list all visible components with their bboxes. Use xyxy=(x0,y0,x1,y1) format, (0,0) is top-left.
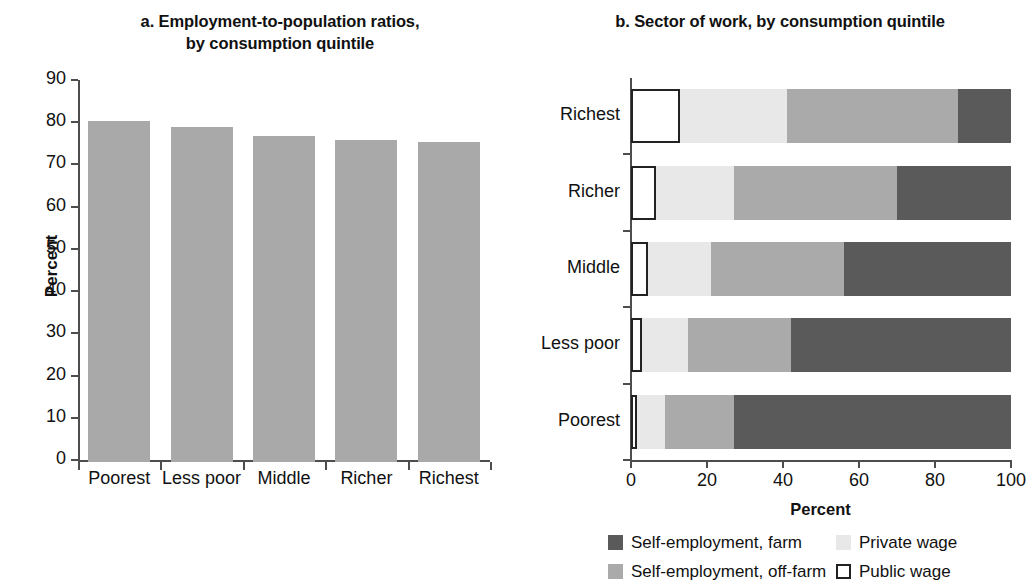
panel-a-y-tick-label: 70 xyxy=(26,152,66,173)
panel-b-bar-segment xyxy=(637,395,666,449)
panel-a-bar xyxy=(335,140,397,462)
legend-swatch-icon xyxy=(608,535,623,550)
panel-a-y-tick xyxy=(71,163,78,165)
panel-b-x-tick xyxy=(1010,460,1012,468)
panel-a-y-tick xyxy=(71,248,78,250)
legend-label: Self-employment, off-farm xyxy=(631,562,826,582)
panel-b-bar-segment xyxy=(631,89,680,143)
panel-b-bar-segment xyxy=(787,89,958,143)
panel-b-x-tick xyxy=(782,460,784,468)
panel-b-x-tick xyxy=(630,460,632,468)
legend-swatch-icon xyxy=(836,535,851,550)
panel-a-y-tick-label: 30 xyxy=(26,321,66,342)
panel-a-y-tick-label: 40 xyxy=(26,279,66,300)
panel-a-y-tick-label: 0 xyxy=(26,448,66,469)
panel-a: Percent 0102030405060708090 PoorestLess … xyxy=(0,60,520,500)
panel-a-title-line2: by consumption quintile xyxy=(45,32,515,54)
panel-b-bar-segment xyxy=(734,395,1011,449)
legend-label: Public wage xyxy=(859,562,951,582)
panel-a-y-tick-label: 10 xyxy=(26,406,66,427)
panel-b-stacked-bar xyxy=(631,395,1011,449)
panel-b-category-label: Middle xyxy=(490,257,620,278)
panel-a-bar xyxy=(418,142,480,462)
panel-b-x-tick xyxy=(934,460,936,468)
legend-item: Public wage xyxy=(836,562,1020,582)
legend-item: Self-employment, farm xyxy=(608,533,836,553)
panel-a-title-line1: a. Employment-to-population ratios, xyxy=(45,10,515,32)
panel-b-bar-segment xyxy=(631,166,656,220)
panel-b-category-label: Less poor xyxy=(490,333,620,354)
panel-b-stacked-bar xyxy=(631,166,1011,220)
panel-b-x-tick-label: 60 xyxy=(829,470,889,491)
panel-a-y-tick-label: 60 xyxy=(26,195,66,216)
panel-b-bar-segment xyxy=(665,395,733,449)
panel-b-x-tick-label: 0 xyxy=(601,470,661,491)
panel-b-x-tick-label: 20 xyxy=(677,470,737,491)
panel-b-bar-segment xyxy=(648,242,711,296)
panel-b-bar-segment xyxy=(844,242,1011,296)
panel-a-y-axis-label: Percent xyxy=(42,206,62,326)
panel-a-bar xyxy=(171,127,233,462)
panel-b: RichestRicherMiddleLess poorPoorest 0204… xyxy=(520,60,1025,500)
panel-a-y-tick xyxy=(71,417,78,419)
panel-b-bar-segment xyxy=(734,166,897,220)
panel-b-category-label: Richest xyxy=(490,104,620,125)
panel-b-bar-segment xyxy=(958,89,1011,143)
panel-b-bar-segment xyxy=(642,318,688,372)
panel-a-y-tick xyxy=(71,375,78,377)
panel-b-bar-segment xyxy=(897,166,1011,220)
panel-a-y-tick-label: 50 xyxy=(26,237,66,258)
panel-a-title: a. Employment-to-population ratios, by c… xyxy=(45,10,515,55)
panel-b-bar-segment xyxy=(688,318,791,372)
panel-b-y-tick xyxy=(623,153,631,155)
panel-a-x-tick-label: Richest xyxy=(389,468,509,489)
chart-legend: Self-employment, farmPrivate wageSelf-em… xyxy=(608,528,1020,585)
legend-item: Self-employment, off-farm xyxy=(608,562,836,582)
legend-swatch-icon xyxy=(836,564,851,579)
panel-b-bar-segment xyxy=(656,166,734,220)
panel-a-y-tick xyxy=(71,79,78,81)
panel-b-x-axis-line xyxy=(630,460,1011,462)
panel-b-x-tick-label: 40 xyxy=(753,470,813,491)
panel-b-bar-segment xyxy=(680,89,786,143)
panel-a-y-tick-label: 80 xyxy=(26,110,66,131)
panel-a-y-tick xyxy=(71,121,78,123)
panel-b-stacked-bar xyxy=(631,242,1011,296)
panel-a-y-tick xyxy=(71,206,78,208)
panel-b-bar-segment xyxy=(711,242,844,296)
legend-swatch-icon xyxy=(608,564,623,579)
panel-a-y-tick xyxy=(71,332,78,334)
panel-b-x-axis-label: Percent xyxy=(630,500,1011,519)
panel-a-bar xyxy=(88,121,150,462)
panel-b-bar-segment xyxy=(631,242,648,296)
panel-a-y-tick-label: 90 xyxy=(26,68,66,89)
panel-b-x-tick xyxy=(858,460,860,468)
legend-item: Private wage xyxy=(836,533,1020,553)
panel-b-bar-segment xyxy=(791,318,1011,372)
panel-b-x-tick xyxy=(706,460,708,468)
panel-a-y-tick-label: 20 xyxy=(26,364,66,385)
panel-b-stacked-bar xyxy=(631,318,1011,372)
panel-a-bar xyxy=(253,136,315,462)
panel-b-category-label: Richer xyxy=(490,181,620,202)
legend-label: Private wage xyxy=(859,533,957,553)
panel-b-category-label: Poorest xyxy=(490,410,620,431)
panel-b-x-tick-label: 80 xyxy=(905,470,965,491)
panel-b-y-tick xyxy=(623,306,631,308)
panel-b-y-tick xyxy=(623,230,631,232)
panel-b-bar-segment xyxy=(631,318,642,372)
legend-label: Self-employment, farm xyxy=(631,533,802,553)
panel-b-stacked-bar xyxy=(631,89,1011,143)
panel-a-bars xyxy=(80,80,490,462)
panel-a-y-tick xyxy=(71,290,78,292)
panel-b-y-tick xyxy=(623,383,631,385)
panel-a-y-tick xyxy=(71,459,78,461)
panel-b-title: b. Sector of work, by consumption quinti… xyxy=(540,10,1020,32)
panel-b-x-tick-label: 100 xyxy=(981,470,1030,491)
